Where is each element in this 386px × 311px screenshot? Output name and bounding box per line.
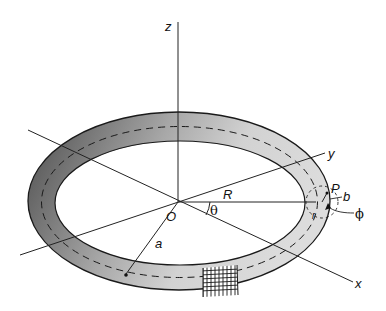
z-axis-label: z bbox=[164, 19, 172, 34]
radius-a-endpoint bbox=[124, 273, 128, 277]
torus-diagram: z y x O R θ a P b r ϕ bbox=[0, 0, 386, 311]
y-axis-label: y bbox=[327, 146, 336, 161]
phi-label: ϕ bbox=[355, 206, 364, 221]
origin-label: O bbox=[166, 209, 176, 224]
theta-label: θ bbox=[210, 203, 218, 218]
a-label: a bbox=[155, 236, 162, 251]
b-label: b bbox=[343, 189, 350, 204]
P-label: P bbox=[331, 181, 340, 196]
R-label: R bbox=[223, 187, 232, 202]
x-axis-label: x bbox=[354, 276, 362, 291]
